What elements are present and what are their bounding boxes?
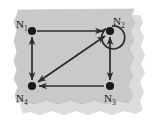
svg-text:N: N [104,92,112,104]
svg-text:N: N [113,15,121,27]
svg-text:4: 4 [24,98,28,107]
edge-n4-n2 [38,36,105,82]
node-n2[interactable] [106,27,114,35]
svg-text:N: N [16,92,24,104]
node-n4[interactable] [28,82,36,90]
svg-text:N: N [16,18,24,30]
graph-figure: N 1 N 2 N 3 N 4 [0,0,154,121]
graph-canvas: N 1 N 2 N 3 N 4 [0,0,154,121]
node-label-n4: N 4 [16,92,28,107]
node-label-n1: N 1 [16,18,28,33]
node-label-n3: N 3 [104,92,116,107]
svg-text:2: 2 [121,21,125,30]
svg-text:3: 3 [112,98,116,107]
node-n3[interactable] [106,82,114,90]
svg-text:1: 1 [24,24,28,33]
node-n1[interactable] [28,27,36,35]
